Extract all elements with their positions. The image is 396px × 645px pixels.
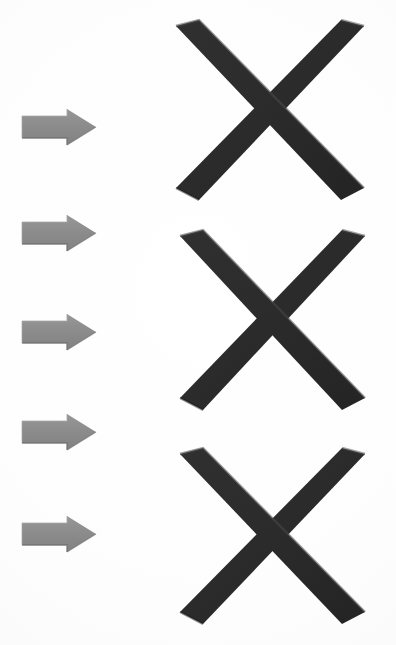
x-cross-glyph xyxy=(176,228,369,414)
right-arrow-icon xyxy=(21,313,97,351)
right-arrow-glyph xyxy=(21,214,97,252)
right-arrow-icon xyxy=(21,515,97,553)
x-cross-icon xyxy=(176,446,369,628)
x-cross-glyph xyxy=(172,18,368,204)
right-arrow-glyph xyxy=(21,515,97,553)
right-arrow-glyph xyxy=(21,108,97,146)
right-arrow-icon xyxy=(21,214,97,252)
right-arrow-glyph xyxy=(21,413,97,451)
x-cross-icon xyxy=(176,228,369,414)
x-cross-glyph xyxy=(176,446,369,628)
x-cross-icon xyxy=(172,18,368,204)
right-arrow-glyph xyxy=(21,313,97,351)
image-canvas xyxy=(0,0,396,645)
right-arrow-icon xyxy=(21,108,97,146)
right-arrow-icon xyxy=(21,413,97,451)
